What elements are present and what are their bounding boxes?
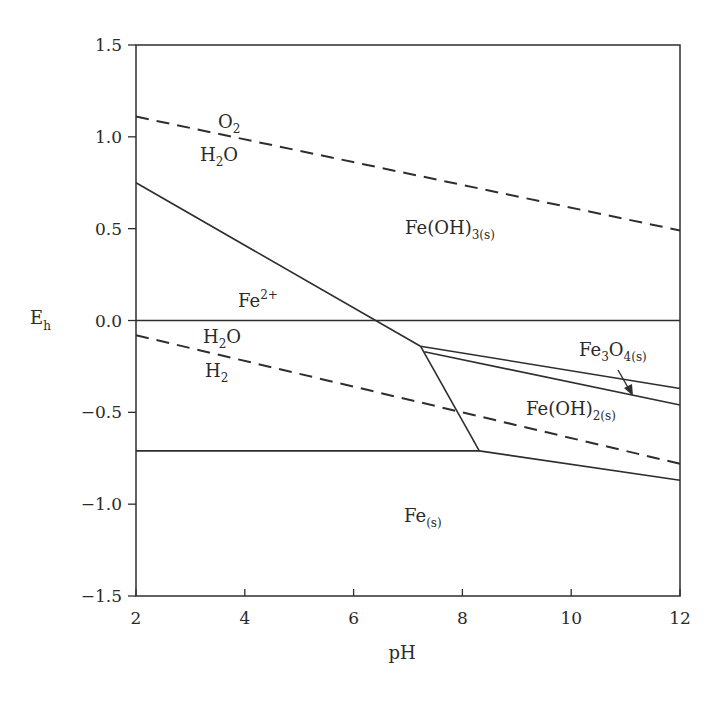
label-fe2plus: Fe2+ [238,288,278,311]
y-axis-title: Eh [30,307,51,333]
x-tick-label: 8 [457,608,468,628]
x-tick-label: 2 [131,608,142,628]
label-o2: O2 [218,111,240,136]
label-feoh2: Fe(OH)2(s) [526,398,616,423]
y-tick-label: −0.5 [81,402,122,422]
x-axis-ticks: 24681012 [131,589,691,628]
x-tick-label: 12 [669,608,691,628]
x-tick-label: 4 [239,608,250,628]
y-tick-label: −1.5 [81,586,122,606]
label-fe-solid: Fe(s) [404,505,442,530]
label-h2: H2 [205,360,228,385]
x-tick-label: 6 [348,608,359,628]
y-tick-label: 0.0 [95,311,122,331]
pourbaix-diagram: 24681012 1.51.00.50.0−0.5−1.0−1.5 pH Eh … [0,0,728,701]
boundary-line-1 [136,183,421,346]
label-h2o-lower: H2O [203,326,241,351]
boundary-lines [136,117,680,481]
label-h2o-upper: H2O [200,144,238,169]
label-fe3o4: Fe3O4(s) [579,339,647,364]
y-tick-label: 0.5 [95,219,122,239]
y-tick-label: 1.0 [95,127,122,147]
x-axis-title: pH [388,642,415,663]
boundary-line-0 [136,117,680,231]
y-tick-label: 1.5 [95,35,122,55]
y-tick-label: −1.0 [81,494,122,514]
label-feoh3: Fe(OH)3(s) [405,217,495,242]
y-axis-ticks: 1.51.00.50.0−0.5−1.0−1.5 [81,35,136,606]
boundary-line-4 [136,451,680,480]
x-tick-label: 10 [560,608,582,628]
